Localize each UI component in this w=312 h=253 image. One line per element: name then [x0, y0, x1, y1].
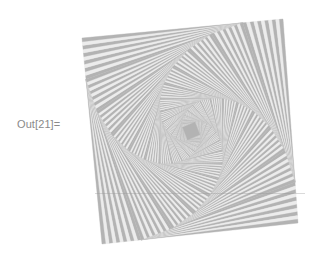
- output-graphic[interactable]: [0, 0, 312, 253]
- divider-line: [95, 193, 305, 194]
- whirl-graphic: [0, 0, 312, 253]
